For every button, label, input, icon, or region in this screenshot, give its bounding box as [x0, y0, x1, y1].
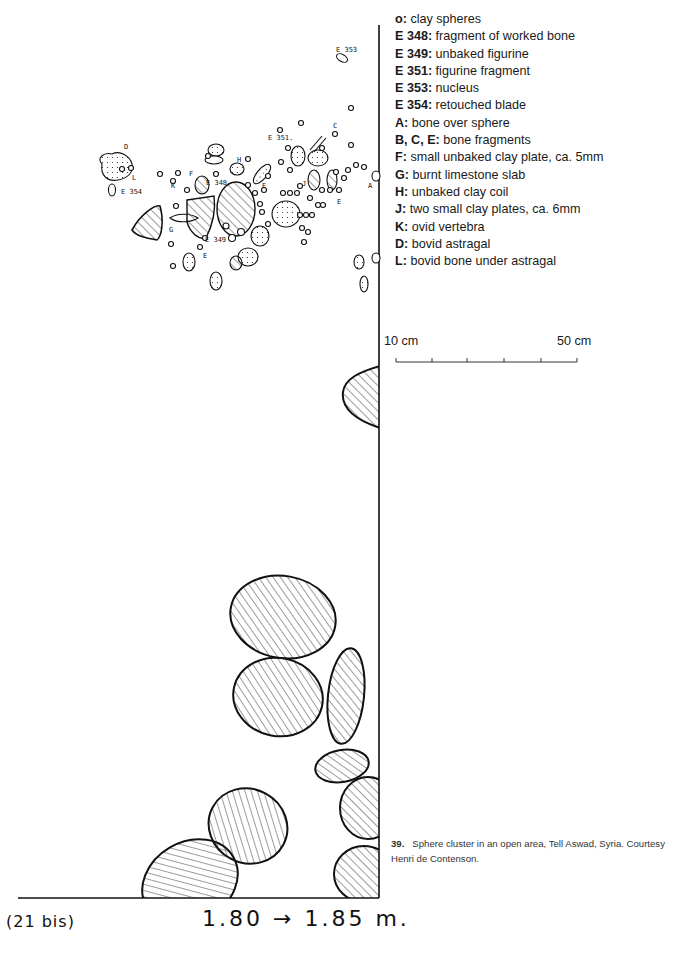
stone [226, 649, 330, 744]
legend-item: E 353: nucleus [395, 80, 604, 97]
label-e354: E 354 [121, 188, 142, 196]
legend-item: J: two small clay plates, ca. 6mm [395, 201, 604, 218]
stone [224, 567, 343, 666]
legend: o: clay spheres E 348: fragment of worke… [395, 11, 604, 270]
find-cluster: E 353 E 351. E 348 E 349 E 354 A C D E E… [100, 46, 380, 292]
label-d: D [124, 143, 128, 151]
legend-item: B, C, E: bone fragments [395, 132, 604, 149]
stone [343, 366, 380, 428]
scale-bar [396, 358, 577, 362]
large-stones [127, 366, 396, 942]
scale-left-label: 10 cm [384, 334, 418, 348]
figure-caption: 39. Sphere cluster in an open area, Tell… [391, 836, 687, 866]
legend-item: o: clay spheres [395, 11, 604, 28]
label-e348: E 348 [206, 179, 227, 187]
legend-item: F: small unbaked clay plate, ca. 5mm [395, 149, 604, 166]
stone [323, 646, 369, 745]
label-k: K [171, 182, 176, 190]
legend-item: H: unbaked clay coil [395, 184, 604, 201]
label-e: E [203, 252, 207, 260]
stone [340, 777, 396, 839]
caption-text: Sphere cluster in an open area, Tell Asw… [391, 838, 665, 864]
figure-number: 39. [391, 838, 404, 849]
label-c: C [333, 122, 337, 130]
label-g: G [169, 226, 173, 234]
label-e349: E 349 [205, 236, 226, 244]
label-h: H [237, 156, 241, 164]
stone [334, 846, 394, 902]
label-a: A [368, 182, 373, 190]
legend-item: A: bone over sphere [395, 115, 604, 132]
depth-label: 1.80 → 1.85 m. [202, 906, 410, 931]
legend-item: E 351: figurine fragment [395, 63, 604, 80]
label-j: J [302, 180, 306, 188]
legend-item: E 354: retouched blade [395, 97, 604, 114]
label-f: F [189, 170, 193, 178]
scale-right-label: 50 cm [557, 334, 591, 348]
label-e: E [262, 182, 266, 190]
legend-item: K: ovid vertebra [395, 219, 604, 236]
label-l: L [132, 174, 136, 182]
label-e353: E 353 [336, 46, 357, 54]
legend-item: L: bovid bone under astragal [395, 253, 604, 270]
sheet-tag: (21 bis) [6, 912, 75, 931]
legend-item: D: bovid astragal [395, 236, 604, 253]
legend-item: E 349: unbaked figurine [395, 46, 604, 63]
label-e351: E 351. [268, 134, 293, 142]
legend-item: G: burnt limestone slab [395, 167, 604, 184]
label-e: E [337, 198, 341, 206]
legend-item: E 348: fragment of worked bone [395, 28, 604, 45]
